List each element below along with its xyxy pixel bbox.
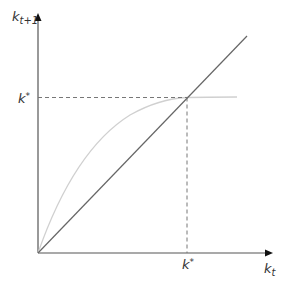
diagram-canvas: [0, 0, 286, 285]
x-axis-label: kt: [264, 262, 275, 278]
steady-state-y-sup: *: [26, 91, 31, 101]
forty-five-degree-line: [38, 36, 247, 253]
y-axis-label: kt+1: [12, 10, 38, 26]
steady-state-y-label: k*: [18, 92, 30, 105]
x-axis-label-base: k: [264, 261, 272, 276]
steady-state-x-base: k: [182, 257, 190, 272]
y-axis-label-base: k: [12, 9, 20, 24]
steady-state-x-label: k*: [182, 258, 194, 271]
y-axis-label-sub: t+1: [20, 15, 39, 26]
x-axis-label-sub: t: [272, 267, 276, 278]
steady-state-x-sup: *: [190, 257, 195, 267]
x-axis-arrow-icon: [265, 250, 273, 257]
steady-state-y-base: k: [18, 91, 26, 106]
accumulation-curve: [38, 97, 237, 253]
